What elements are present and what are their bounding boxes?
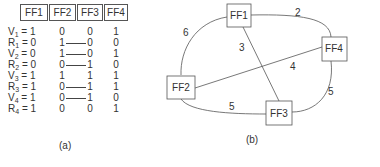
weight-ff1-ff3: 3 xyxy=(239,42,245,53)
edge-ff4-ff3 xyxy=(292,61,332,112)
weight-ff1-ff2: 6 xyxy=(183,27,189,38)
edge-ff2-ff4 xyxy=(195,47,322,88)
part-b-graph: FF1 FF2 FF3 FF4 2 6 3 4 5 5 (b) xyxy=(0,0,380,167)
weight-ff4-ff3: 5 xyxy=(328,86,334,97)
node-ff4-label: FF4 xyxy=(325,43,343,54)
edge-ff1-ff4 xyxy=(251,15,331,37)
edge-ff2-ff3 xyxy=(181,99,266,114)
node-ff2-label: FF2 xyxy=(172,82,190,93)
node-ff1-label: FF1 xyxy=(230,10,248,21)
figure: FF1 FF2 FF3 FF4 V1 = 1001R1 = 0100V2 = 0… xyxy=(0,0,380,167)
edge-ff1-ff3 xyxy=(243,27,279,101)
weight-ff1-ff4: 2 xyxy=(295,7,301,18)
caption-b: (b) xyxy=(246,134,258,145)
weight-ff2-ff3: 5 xyxy=(229,101,235,112)
weight-ff2-ff4: 4 xyxy=(290,61,296,72)
edge-ff1-ff2 xyxy=(181,17,227,75)
node-ff3-label: FF3 xyxy=(270,108,288,119)
